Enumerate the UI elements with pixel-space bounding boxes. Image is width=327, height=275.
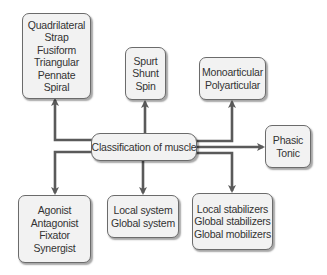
arrow-to-shape: [55, 100, 92, 140]
node-text: Global system: [111, 217, 175, 230]
node-text: Tonic: [276, 147, 300, 160]
arrow-to-function: [196, 153, 232, 191]
node-text: Global mobilizers: [194, 228, 271, 241]
node-role: Agonist Antagonist Fixator Synergist: [18, 195, 91, 263]
node-text: Synergist: [34, 242, 76, 255]
arrow-to-joints: [196, 102, 232, 141]
node-text: Agonist: [38, 204, 72, 217]
node-fiber-type: Phasic Tonic: [265, 125, 311, 168]
node-text: Spurt: [133, 55, 157, 68]
node-text: Pennate: [38, 69, 76, 82]
node-text: Fusiform: [37, 44, 76, 57]
node-text: Global stabilizers: [194, 215, 270, 228]
node-shape: Quadrilateral Strap Fusiform Triangular …: [22, 13, 91, 99]
node-joints: Monoarticular Polyarticular: [199, 57, 266, 100]
muscle-classification-diagram: Quadrilateral Strap Fusiform Triangular …: [0, 0, 327, 275]
node-function: Local stabilizers Global stabilizers Glo…: [192, 193, 273, 250]
node-text: Quadrilateral: [28, 19, 86, 32]
node-text: Strap: [44, 31, 68, 44]
node-text: Spiral: [44, 81, 70, 94]
node-center: Classification of muscle: [91, 133, 197, 161]
node-text: Fixator: [39, 229, 70, 242]
node-text: Spin: [135, 80, 155, 93]
node-action-type: Spurt Shunt Spin: [125, 47, 166, 100]
node-system: Local system Global system: [107, 195, 179, 238]
node-text: Polyarticular: [205, 79, 260, 92]
arrow-to-role: [55, 152, 92, 193]
node-text: Monoarticular: [202, 66, 263, 79]
node-text: Local stabilizers: [197, 203, 268, 216]
node-text: Triangular: [34, 56, 79, 69]
node-text: Phasic: [273, 134, 303, 147]
node-text: Antagonist: [31, 217, 79, 230]
center-label: Classification of muscle: [92, 141, 197, 154]
node-text: Local system: [114, 204, 173, 217]
node-text: Shunt: [132, 67, 158, 80]
